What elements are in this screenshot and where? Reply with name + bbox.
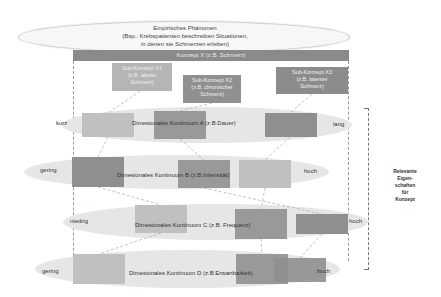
- side-label-line-5: Konzept: [380, 196, 430, 203]
- side-label-line-4: für: [380, 189, 430, 196]
- side-label-line-1: Relevante: [380, 168, 430, 175]
- side-label-line-3: schaften: [380, 182, 430, 189]
- properties-bracket: [364, 108, 369, 270]
- relevant-properties-label: Relevante Eigen- schaften für Konzept: [380, 168, 430, 203]
- side-label-line-2: Eigen-: [380, 175, 430, 182]
- connector-lines: [0, 0, 441, 297]
